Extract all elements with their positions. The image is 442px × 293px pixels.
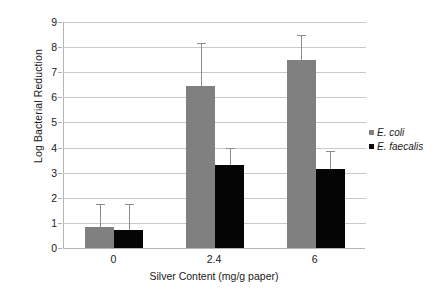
y-tick-mark bbox=[58, 22, 62, 23]
y-tick-mark bbox=[58, 122, 62, 123]
y-tick-label: 4 bbox=[35, 143, 57, 153]
x-tick-label: 2.4 bbox=[184, 253, 244, 265]
y-tick-mark bbox=[58, 223, 62, 224]
y-tick-label: 9 bbox=[35, 17, 57, 27]
bar-chart-figure: Log Bacterial Reduction 0123456789 02.46… bbox=[0, 0, 442, 293]
y-tick-mark bbox=[58, 47, 62, 48]
y-tick-label: 3 bbox=[35, 168, 57, 178]
y-tick-label: 2 bbox=[35, 193, 57, 203]
error-bar bbox=[230, 148, 231, 166]
bar bbox=[215, 165, 244, 248]
bar bbox=[85, 227, 114, 248]
x-axis-line bbox=[63, 248, 365, 249]
x-axis-title: Silver Content (mg/g paper) bbox=[63, 270, 365, 282]
legend-item: E. faecalis bbox=[369, 139, 423, 153]
y-tick-label: 1 bbox=[35, 218, 57, 228]
error-bar-cap bbox=[326, 151, 335, 152]
legend-swatch-ecoli bbox=[369, 130, 374, 135]
bar bbox=[316, 169, 345, 248]
y-tick-label: 8 bbox=[35, 42, 57, 52]
y-tick-label: 5 bbox=[35, 117, 57, 127]
bar bbox=[287, 60, 316, 248]
y-tick-mark bbox=[58, 72, 62, 73]
error-bar-cap bbox=[226, 148, 235, 149]
error-bar bbox=[201, 43, 202, 86]
bar bbox=[114, 230, 143, 248]
y-tick-mark bbox=[58, 198, 62, 199]
x-tick-label: 6 bbox=[285, 253, 345, 265]
legend-swatch-efaecalis bbox=[369, 144, 374, 149]
y-tick-mark bbox=[58, 148, 62, 149]
error-bar bbox=[301, 35, 302, 60]
y-tick-mark bbox=[58, 248, 62, 249]
legend: E. coliE. faecalis bbox=[369, 125, 423, 153]
bar-series-container bbox=[64, 22, 366, 248]
error-bar-cap bbox=[197, 43, 206, 44]
error-bar bbox=[129, 204, 130, 230]
y-axis-ticks: 0123456789 bbox=[33, 0, 57, 293]
y-tick-label: 7 bbox=[35, 67, 57, 77]
error-bar bbox=[100, 204, 101, 227]
legend-label: E. coli bbox=[377, 127, 404, 138]
error-bar-cap bbox=[297, 35, 306, 36]
bar bbox=[186, 86, 215, 248]
y-tick-mark bbox=[58, 97, 62, 98]
error-bar bbox=[330, 151, 331, 169]
error-bar-cap bbox=[96, 204, 105, 205]
y-tick-label: 0 bbox=[35, 243, 57, 253]
y-tick-label: 6 bbox=[35, 92, 57, 102]
plot-area bbox=[63, 22, 365, 248]
y-tick-mark bbox=[58, 173, 62, 174]
legend-item: E. coli bbox=[369, 125, 423, 139]
x-tick-label: 0 bbox=[83, 253, 143, 265]
error-bar-cap bbox=[125, 204, 134, 205]
legend-label: E. faecalis bbox=[377, 141, 423, 152]
